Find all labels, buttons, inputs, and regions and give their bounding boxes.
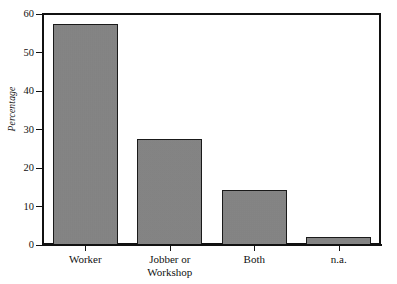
y-axis-title: Percentage [7, 79, 17, 139]
y-axis-tick-mark [36, 91, 43, 92]
chart-page: 0102030405060 Percentage WorkerJobber or… [0, 0, 397, 284]
y-axis-tick-label: 60 [24, 9, 35, 20]
bar [53, 24, 118, 245]
y-axis-tick-label: 30 [24, 125, 35, 136]
x-axis-line [42, 244, 382, 246]
x-axis-tick-mark [170, 246, 171, 251]
x-axis-tick-label: n.a. [297, 253, 382, 266]
y-axis-tick-label: 10 [24, 202, 35, 213]
y-axis-tick-label: 40 [24, 86, 35, 97]
y-axis-tick-labels: 0102030405060 [0, 0, 34, 284]
bar [137, 139, 202, 245]
x-axis-tick-label: Both [212, 253, 297, 266]
y-axis-tick-label: 50 [24, 48, 35, 59]
y-axis-tick-label: 0 [29, 240, 34, 251]
y-axis-tick-mark [36, 129, 43, 130]
y-axis-tick-mark [36, 245, 43, 246]
bar [222, 190, 287, 245]
x-axis-tick-mark [85, 246, 86, 251]
y-axis-tick-mark [36, 206, 43, 207]
x-axis-tick-mark [339, 246, 340, 251]
y-axis-tick-label: 20 [24, 163, 35, 174]
x-axis-tick-label: Worker [43, 253, 128, 266]
x-axis-tick-mark [254, 246, 255, 251]
y-axis-tick-mark [36, 52, 43, 53]
y-axis-tick-mark [36, 14, 43, 15]
x-axis-tick-label: Jobber or Workshop [128, 253, 213, 278]
bars-layer [43, 14, 381, 245]
y-axis-tick-mark [36, 168, 43, 169]
